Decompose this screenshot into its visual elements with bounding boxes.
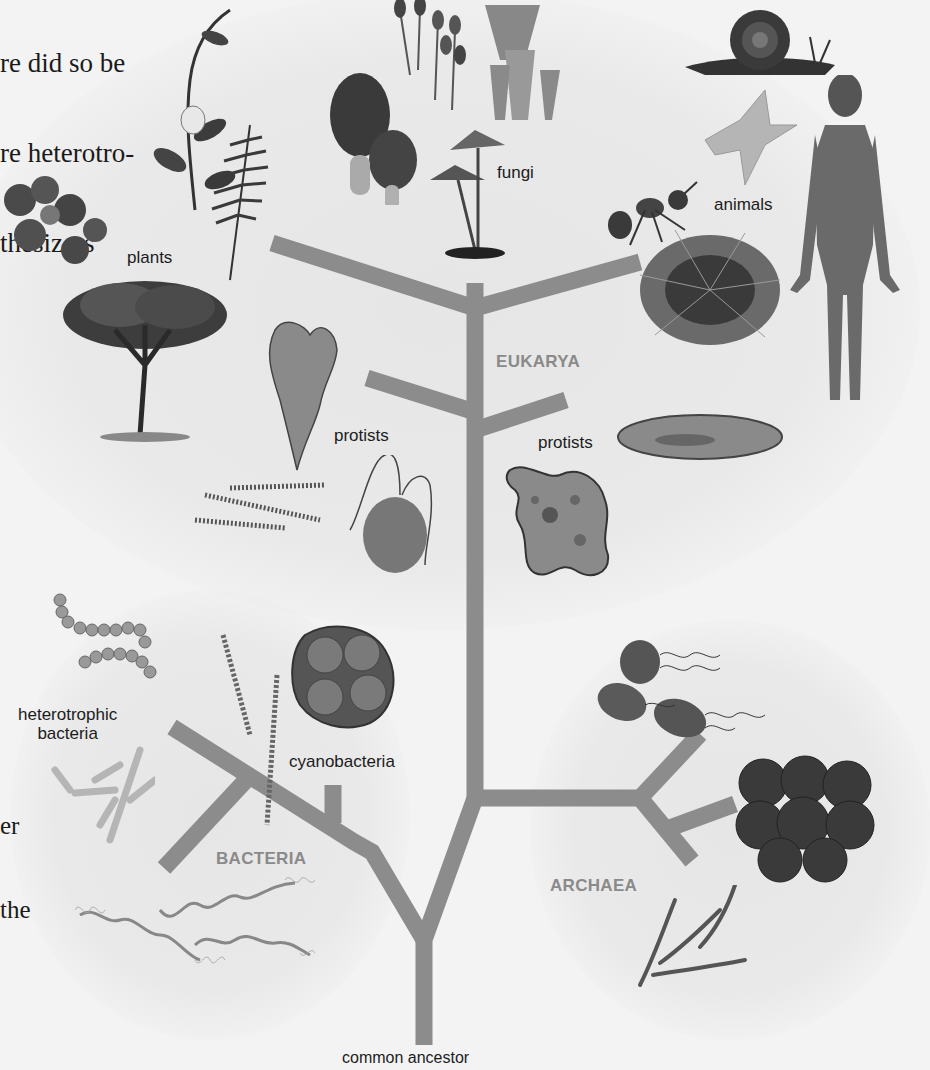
cyanobacteria-filaments-illustration [215,630,295,830]
cup-fungi-illustration [480,0,570,130]
algae-illustration [265,310,345,475]
spirochetes-illustration [75,875,315,995]
diatom-chains-illustration [190,480,330,540]
animals-label: animals [714,195,773,214]
cocci-chains-illustration [50,590,170,680]
plants-label: plants [127,248,172,267]
protists-left-label: protists [334,426,389,445]
fungi-label: fungi [497,163,534,182]
flagellate-illustration [340,455,440,580]
eukarya-label: EUKARYA [496,352,580,372]
label-line: bacteria [18,724,117,743]
tree-illustration [60,275,235,445]
sea-urchin-illustration [635,225,785,355]
common-ancestor-label: common ancestor [342,1048,469,1067]
protists-right-label: protists [538,433,593,452]
morel-illustration [325,55,425,205]
clover-illustration [0,170,110,290]
archaea-label: ARCHAEA [550,876,637,896]
label-line: heterotrophic [18,705,117,724]
cyanobacteria-colony-illustration [290,625,400,730]
flagellated-archaea-illustration [595,640,765,750]
bacteria-label: BACTERIA [216,849,306,869]
fern-illustration [200,115,280,285]
human-illustration [785,75,910,405]
rod-bacteria-illustration [45,745,155,855]
archaea-filaments-illustration [635,885,755,995]
paramecium-illustration [615,410,785,465]
archaea-cluster-illustration [735,755,885,885]
mushroom-illustration [420,120,520,260]
cyanobacteria-label: cyanobacteria [289,752,395,771]
heterotrophic-bacteria-label: heterotrophic bacteria [18,705,117,743]
amoeba-illustration [500,455,615,585]
snail-illustration [685,5,845,80]
